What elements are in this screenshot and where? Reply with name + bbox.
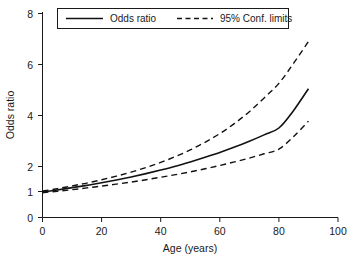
curve-upper-conf-limit: [43, 42, 309, 191]
x-axis-title: Age (years): [163, 242, 217, 254]
chart-axes: [43, 12, 339, 218]
y-axis-ticks: 8 6 4 2 1 0: [27, 8, 42, 224]
y-tick-label-6: 6: [27, 59, 33, 71]
x-tick-label-0: 0: [40, 225, 46, 237]
x-tick-label-20: 20: [96, 225, 108, 237]
chart-legend: Odds ratio 95% Conf. limits: [58, 9, 293, 29]
x-tick-label-80: 80: [273, 225, 285, 237]
y-axis-title: Odds ratio: [4, 91, 16, 140]
legend-label-conf-limits: 95% Conf. limits: [220, 13, 292, 24]
x-axis-ticks: 0 20 40 60 80 100: [40, 218, 347, 238]
y-tick-label-8: 8: [27, 8, 33, 20]
chart-canvas: Odds ratio 95% Conf. limits 8 6 4 2 1 0: [0, 0, 358, 260]
chart-series-group: [43, 42, 309, 193]
y-tick-label-4: 4: [27, 110, 33, 122]
y-tick-label-1: 1: [27, 186, 33, 198]
y-tick-label-2: 2: [27, 161, 33, 173]
legend-label-odds-ratio: Odds ratio: [110, 13, 157, 24]
x-tick-label-40: 40: [155, 225, 167, 237]
x-tick-label-100: 100: [329, 225, 347, 237]
odds-ratio-chart: Odds ratio 95% Conf. limits 8 6 4 2 1 0: [0, 0, 358, 260]
y-tick-label-0: 0: [27, 212, 33, 224]
curve-odds-ratio: [43, 89, 309, 192]
x-tick-label-60: 60: [214, 225, 226, 237]
curve-lower-conf-limit: [43, 121, 309, 193]
